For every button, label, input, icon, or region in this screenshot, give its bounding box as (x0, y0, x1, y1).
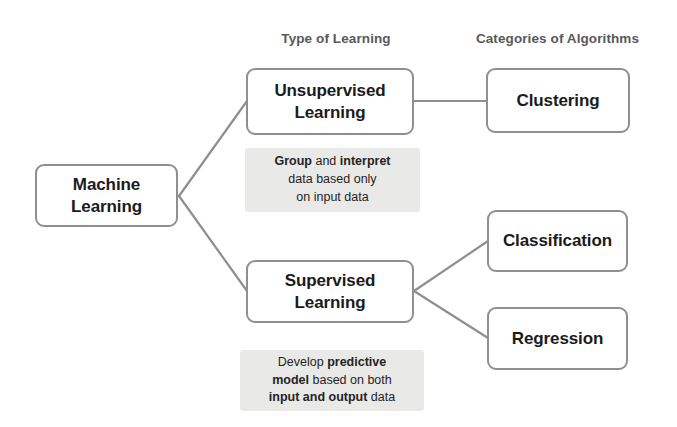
node-classification[interactable]: Classification (487, 210, 628, 272)
note-unsupervised-learning-text: Group and interpret data based only on i… (274, 153, 390, 206)
note-u-line2: data based only (288, 172, 376, 186)
node-machine-learning-label: MachineLearning (65, 174, 148, 218)
edge-supervised-to-classification (414, 241, 488, 291)
note-u-line3: on input data (296, 190, 368, 204)
node-machine-learning[interactable]: MachineLearning (35, 164, 178, 227)
note-s-bold-model: model (272, 373, 309, 387)
note-supervised-learning: Develop predictive model based on both i… (240, 350, 424, 411)
note-u-mid-and: and (312, 154, 340, 168)
node-clustering-label: Clustering (510, 90, 605, 112)
machine-learning-taxonomy-diagram: Type of Learning Categories of Algorithm… (0, 0, 677, 427)
column-header-type-of-learning: Type of Learning (246, 31, 426, 46)
note-u-bold-group: Group (274, 154, 312, 168)
node-unsupervised-learning-label: UnsupervisedLearning (268, 80, 391, 124)
note-s-line1-plain: Develop (278, 355, 327, 369)
edge-ml-to-unsupervised (179, 101, 247, 196)
note-s-line3-plain: data (367, 390, 395, 404)
note-s-bold-predictive: predictive (327, 355, 386, 369)
column-header-categories-of-algorithms: Categories of Algorithms (450, 31, 665, 46)
node-supervised-learning[interactable]: SupervisedLearning (246, 260, 414, 323)
node-unsupervised-learning[interactable]: UnsupervisedLearning (246, 68, 414, 135)
node-clustering[interactable]: Clustering (486, 68, 630, 133)
edge-supervised-to-regression (414, 291, 488, 338)
note-u-bold-interpret: interpret (340, 154, 391, 168)
note-unsupervised-learning: Group and interpret data based only on i… (245, 148, 420, 212)
note-s-line2-plain: based on both (309, 373, 392, 387)
note-s-bold-input-output: input and output (269, 390, 368, 404)
node-supervised-learning-label: SupervisedLearning (279, 270, 382, 314)
edge-ml-to-supervised (179, 196, 247, 291)
node-classification-label: Classification (497, 230, 618, 252)
node-regression[interactable]: Regression (487, 307, 628, 370)
node-regression-label: Regression (506, 328, 610, 350)
note-supervised-learning-text: Develop predictive model based on both i… (269, 354, 395, 407)
